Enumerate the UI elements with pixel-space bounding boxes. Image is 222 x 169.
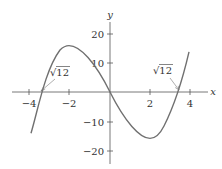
annotation-text: √12 [50,67,69,78]
x-tick-label: 2 [147,98,153,109]
annotation-arrow-right [170,78,179,90]
x-tick-label: −2 [62,98,77,109]
y-tick-label: −20 [83,146,104,157]
annotation-text: √12 [153,65,172,76]
annotation-sqrt12-left: √12 [50,67,69,78]
y-axis-label: y [106,9,113,20]
cubic-function-plot: −4 −2 2 4 20 10 −10 −20 y x √12 √12 [0,0,222,169]
x-axis-label: x [210,86,216,97]
x-tick-label: 4 [187,98,193,109]
x-tick-label: −4 [22,98,37,109]
y-tick-label: 20 [91,29,104,40]
annotation-sqrt12-right: √12 [153,65,172,76]
y-tick-label: −10 [83,117,104,128]
annotation-arrow-left [41,79,55,91]
